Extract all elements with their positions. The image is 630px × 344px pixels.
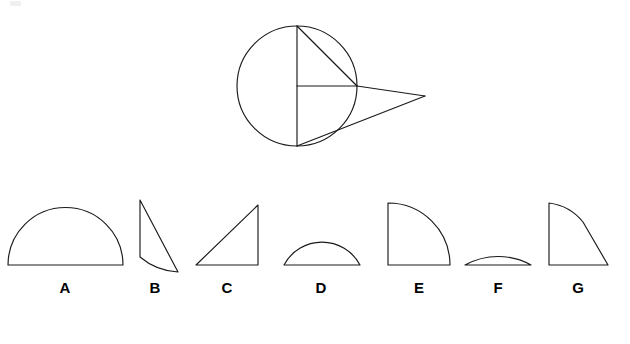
figure-page: A B C D E F G [0,0,630,344]
circle-tangent-diagram [237,26,425,146]
shape-g-group: G [549,203,608,296]
shape-label-g: G [572,279,584,296]
shape-label-e: E [414,279,424,296]
shape-c-triangle [196,205,258,265]
shape-a-group: A [8,208,123,296]
shape-e-group: E [388,203,450,296]
shape-c-group: C [196,205,258,296]
figure-canvas: A B C D E F G [0,0,630,344]
shape-label-d: D [316,279,327,296]
shape-label-b: B [150,279,161,296]
shape-d-group: D [284,242,360,296]
shape-b-group: B [140,200,178,296]
shape-a-semicircle [8,208,123,265]
shape-f-group: F [465,256,531,296]
shape-b-sliver [140,200,178,272]
shape-label-a: A [60,279,71,296]
shape-e-quadrant [388,203,450,265]
chord-top-to-right-line [297,26,357,86]
shape-g-sector [549,203,608,265]
horizontal-extension-line [357,86,425,96]
shape-f-segment [465,256,531,265]
shape-label-c: C [222,279,233,296]
shape-label-f: F [493,279,502,296]
shape-d-segment [284,242,360,265]
bottom-to-apex-line [297,96,425,146]
